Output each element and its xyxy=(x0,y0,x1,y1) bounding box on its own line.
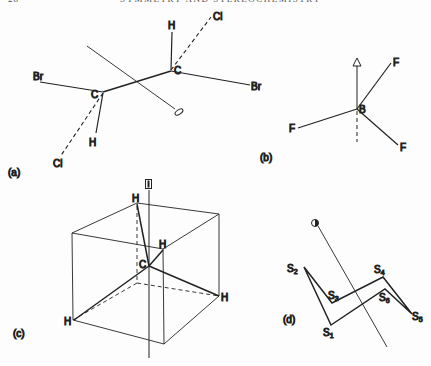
bond-c-cl-top-dashed xyxy=(171,17,211,70)
atom-s6: S6 xyxy=(379,292,390,304)
symmetry-figure: Br C H Cl C H Cl Br (a) B F F F (b) xyxy=(0,0,431,366)
atom-c-left: C xyxy=(91,89,98,100)
panel-label-c: (c) xyxy=(13,328,25,339)
panel-label-a: (a) xyxy=(8,167,20,178)
panel-a: Br C H Cl C H Cl Br (a) xyxy=(8,11,262,178)
book-page: 28 SYMMETRY AND STEREOCHEMISTRY Br C H C… xyxy=(0,0,431,366)
atom-cl-top: Cl xyxy=(213,11,222,22)
atom-s4: S4 xyxy=(374,264,385,276)
atom-b: B xyxy=(359,104,366,115)
s4-bar-icon xyxy=(148,181,150,188)
atom-c: C xyxy=(139,259,146,270)
panel-b: B F F F (b) xyxy=(260,57,406,163)
panel-label-b: (b) xyxy=(260,152,272,163)
atom-h-left: H xyxy=(64,316,71,327)
c2-axis-line xyxy=(87,46,175,109)
bond-c-h-front xyxy=(149,250,163,266)
atom-f-upper: F xyxy=(393,57,399,68)
atom-s2: S2 xyxy=(287,263,298,275)
c3-triangle-icon xyxy=(353,58,361,66)
bond-c-h-left xyxy=(74,266,149,320)
atom-h-top: H xyxy=(132,193,139,204)
atom-c-right: C xyxy=(174,65,181,76)
bond-c-cl-bottom-dashed xyxy=(60,93,103,157)
atom-h-bottom: H xyxy=(89,137,96,148)
bond-b-f-upper xyxy=(357,63,391,109)
atom-br-left: Br xyxy=(33,71,44,82)
panel-label-d: (d) xyxy=(283,314,295,325)
atom-s3: S3 xyxy=(328,290,339,302)
cube-edges xyxy=(72,203,219,344)
atom-s5: S5 xyxy=(412,311,423,323)
atom-f-lower: F xyxy=(400,142,406,153)
atom-h-right: H xyxy=(221,292,228,303)
atom-br-right: Br xyxy=(251,81,262,92)
atom-h-front: H xyxy=(159,239,166,250)
panel-c: H H C H H (c) xyxy=(13,180,228,359)
bond-c-h-top xyxy=(137,204,149,266)
atom-cl-bottom: Cl xyxy=(53,158,62,169)
c2-ellipse-icon xyxy=(174,108,184,117)
atom-h-top: H xyxy=(168,20,175,31)
bond-c-h-top xyxy=(171,32,172,70)
bond-c-h-right xyxy=(149,266,219,296)
bond-b-f-left xyxy=(298,109,357,128)
panel-d: S2 S3 S4 S6 S5 S1 (d) xyxy=(283,220,423,348)
bond-c-br-right xyxy=(171,71,250,85)
atom-f-left: F xyxy=(289,123,295,134)
atom-s1: S1 xyxy=(323,327,334,339)
